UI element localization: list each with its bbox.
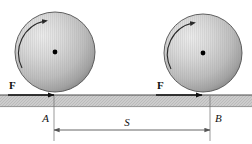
point-a-label: A <box>41 112 49 124</box>
force-label-left: F <box>9 79 16 91</box>
left-ball-center-dot <box>53 50 58 55</box>
physics-diagram: F F S A B <box>0 0 252 144</box>
diagram-canvas: F F S A B <box>0 0 252 144</box>
distance-label: S <box>124 116 130 128</box>
point-b-label: B <box>215 112 222 124</box>
ground-fill <box>0 95 252 107</box>
right-ball <box>164 14 242 92</box>
right-ball-center-dot <box>201 51 206 56</box>
force-label-right: F <box>157 79 164 91</box>
ground-surface <box>0 95 252 107</box>
left-ball <box>15 12 95 92</box>
